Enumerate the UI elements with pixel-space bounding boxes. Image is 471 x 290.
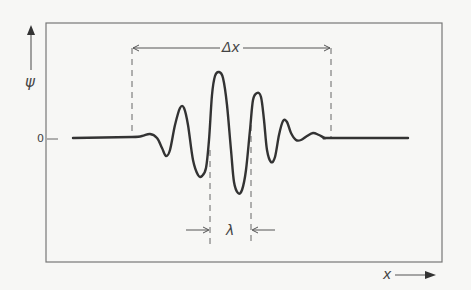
wave-packet-curve — [73, 72, 408, 194]
psi-axis-arrow — [27, 25, 35, 70]
plot-frame — [46, 23, 442, 262]
wave-packet-figure: ψ 0 Δx λ x — [0, 0, 471, 290]
x-axis-label: x — [383, 267, 391, 281]
delta-x-label: Δx — [222, 40, 240, 54]
lambda-label: λ — [226, 223, 234, 237]
psi-label: ψ — [25, 75, 35, 90]
zero-label: 0 — [37, 133, 44, 144]
x-axis-arrow — [395, 271, 436, 279]
